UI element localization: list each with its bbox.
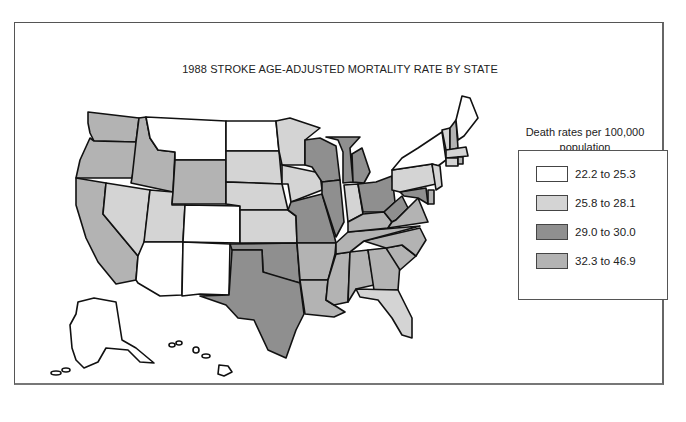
state-ks [240,210,297,243]
hawaii-big-island [218,365,232,376]
state-nj [432,164,442,190]
aleutian-island [62,368,70,372]
state-ct [446,158,458,166]
legend-label: 25.8 to 28.1 [575,197,636,209]
legend-label: 32.3 to 46.9 [575,255,636,267]
state-nm [182,242,230,296]
legend-swatch-white [536,166,568,182]
state-wa [88,112,139,142]
state-or [76,138,138,178]
legend-label: 22.2 to 25.3 [575,168,636,180]
state-az [136,242,183,296]
legend-title-line1: Death rates per 100,000 [505,125,665,140]
aleutian-island [51,371,61,375]
legend-item: 25.8 to 28.1 [536,193,636,213]
state-co [183,205,240,243]
state-nd [226,121,279,151]
state-me [456,96,478,140]
state-ri [458,157,463,164]
legend-swatch-light [536,195,568,211]
legend-swatch-dark [536,224,568,240]
state-ne [226,182,288,210]
state-wy [172,160,226,204]
legend-item: 32.3 to 46.9 [536,251,636,271]
hawaii-island [169,343,175,347]
legend-label: 29.0 to 30.0 [575,226,636,238]
legend-item: 29.0 to 30.0 [536,222,636,242]
state-ak [70,298,154,368]
hawaii-island [202,354,210,358]
state-fl [356,289,412,338]
hawaii-island [176,341,182,345]
state-de [428,190,434,204]
state-sd [226,151,282,184]
hawaii-island [193,347,199,353]
legend-swatch-medium [536,253,568,269]
state-ny [392,132,446,170]
legend: 22.2 to 25.3 25.8 to 28.1 29.0 to 30.0 3… [518,150,668,300]
legend-item: 22.2 to 25.3 [536,164,636,184]
